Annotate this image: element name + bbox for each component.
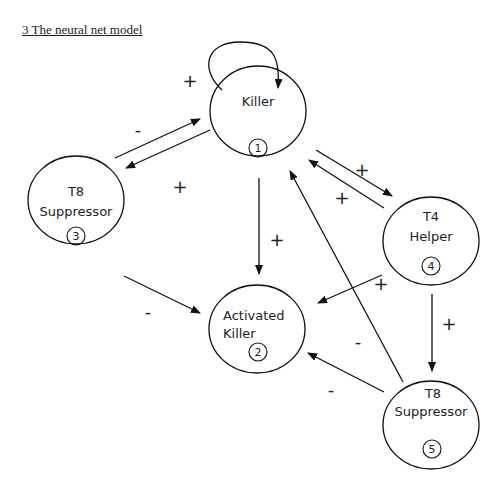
node-label: Killer bbox=[242, 94, 275, 109]
node-number: 5 bbox=[429, 443, 436, 456]
sign-label: + bbox=[373, 273, 388, 294]
edge-killer-to-t8-left: + bbox=[126, 130, 210, 197]
edge-t8-right-to-activated: - bbox=[308, 353, 384, 400]
sign-label: + bbox=[172, 176, 187, 197]
sign-label: - bbox=[145, 301, 152, 322]
node-label: Killer bbox=[223, 326, 256, 341]
node-number: 2 bbox=[255, 346, 262, 359]
sign-label: + bbox=[334, 187, 349, 208]
node-t8-suppressor-right: T8 Suppressor 5 bbox=[383, 381, 479, 469]
node-label: Suppressor bbox=[40, 204, 114, 219]
edge-t8-left-to-activated: - bbox=[124, 276, 200, 322]
node-t4-helper: T4 Helper 4 bbox=[383, 197, 479, 285]
node-label: T8 bbox=[424, 386, 441, 401]
sign-label: + bbox=[354, 159, 369, 180]
sign-label: + bbox=[441, 313, 456, 334]
edge-killer-to-activated: + bbox=[259, 178, 285, 274]
diagram-canvas: 3 The neural net model Killer 1 T8 Suppr… bbox=[0, 0, 504, 497]
node-killer: Killer 1 bbox=[210, 66, 306, 157]
sign-label: + bbox=[182, 70, 197, 91]
node-number: 1 bbox=[255, 142, 262, 155]
node-label: Suppressor bbox=[395, 404, 469, 419]
node-number: 3 bbox=[73, 230, 80, 243]
node-label: T4 bbox=[422, 209, 439, 224]
node-t8-suppressor-left: T8 Suppressor 3 bbox=[28, 156, 124, 245]
node-label: T8 bbox=[67, 184, 84, 199]
sign-label: - bbox=[328, 379, 335, 400]
network-diagram: Killer 1 T8 Suppressor 3 T4 Helper 4 Act… bbox=[0, 0, 504, 497]
sign-label: + bbox=[269, 229, 284, 250]
node-label: Activated bbox=[223, 308, 285, 323]
sign-label: - bbox=[135, 119, 142, 140]
edge-t4-to-t8-right: + bbox=[432, 294, 457, 371]
node-activated-killer: Activated Killer 2 bbox=[209, 285, 305, 373]
edge-t8-left-to-killer: - bbox=[115, 119, 200, 158]
node-number: 4 bbox=[428, 260, 435, 273]
sign-label: - bbox=[355, 331, 362, 352]
node-label: Helper bbox=[410, 229, 454, 244]
